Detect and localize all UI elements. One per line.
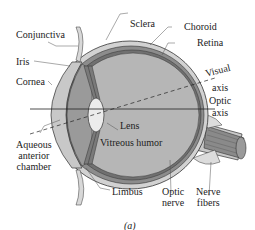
label-optic-nerve: Optic nerve <box>162 186 184 208</box>
label-choroid: Choroid <box>184 21 217 32</box>
label-sclera: Sclera <box>130 18 155 29</box>
label-limbus: Limbus <box>112 186 143 197</box>
label-optic-axis-2: axis <box>212 107 228 118</box>
label-iris: Iris <box>16 56 29 67</box>
label-retina: Retina <box>197 37 223 48</box>
label-visual-axis-2: axis <box>212 82 228 93</box>
figure-caption: (a) <box>124 220 136 230</box>
label-optic-axis: Optic <box>209 95 231 106</box>
label-lens: Lens <box>120 120 139 131</box>
cornea-shape <box>51 62 92 168</box>
conjunctiva-lower-shape <box>76 170 84 205</box>
label-nerve-fibers: Nerve fibers <box>196 186 220 208</box>
label-cornea: Cornea <box>16 76 45 87</box>
label-conjunctiva: Conjunctiva <box>16 29 65 40</box>
label-vitreous-humor: Vitreous humor <box>100 137 162 148</box>
lens-shape <box>88 98 104 132</box>
label-aqueous-anterior-chamber: Aqueous anterior chamber <box>16 139 52 172</box>
